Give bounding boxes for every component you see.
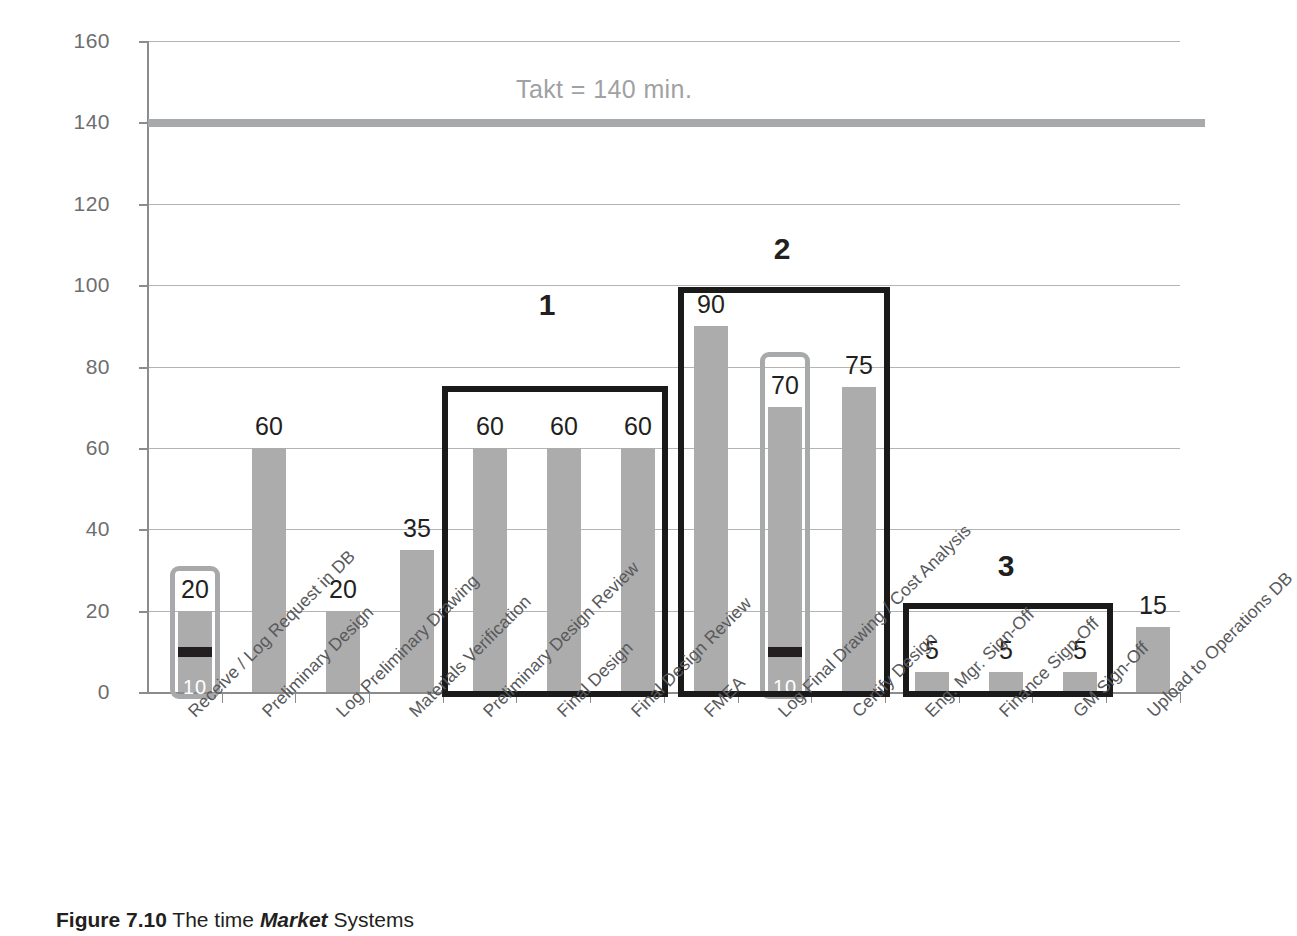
annotation-group-label-2: 2 xyxy=(752,232,812,266)
gridline-100 xyxy=(148,285,1180,286)
bar-value-materials-verification: 35 xyxy=(387,514,447,543)
y-tick-120 xyxy=(139,204,148,206)
gridline-160 xyxy=(148,41,1180,42)
figure-caption-text-after: Systems xyxy=(328,908,414,931)
y-tick-0 xyxy=(139,692,148,694)
y-tick-40 xyxy=(139,529,148,531)
takt-label: Takt = 140 min. xyxy=(516,75,692,104)
gridline-80 xyxy=(148,367,1180,368)
annotation-group-label-1: 1 xyxy=(517,288,577,322)
y-axis-label-40: 40 xyxy=(40,517,110,541)
y-axis-label-120: 120 xyxy=(40,192,110,216)
y-axis-label-100: 100 xyxy=(40,273,110,297)
takt-reference-line xyxy=(148,119,1205,127)
y-axis-label-160: 160 xyxy=(40,29,110,53)
y-axis-label-80: 80 xyxy=(40,355,110,379)
figure-caption-text-before: The time xyxy=(167,908,260,931)
gridline-120 xyxy=(148,204,1180,205)
y-tick-20 xyxy=(139,611,148,613)
figure-caption-emphasis: Market xyxy=(260,908,328,931)
y-tick-160 xyxy=(139,41,148,43)
y-axis-label-140: 140 xyxy=(40,110,110,134)
y-axis-label-60: 60 xyxy=(40,436,110,460)
figure-caption: Figure 7.10 The time Market Systems xyxy=(56,908,414,932)
y-axis-label-20: 20 xyxy=(40,599,110,623)
bar-value-upload-to-operations-db: 15 xyxy=(1123,591,1183,620)
bar-value-preliminary-design: 60 xyxy=(239,412,299,441)
annotation-group-label-3: 3 xyxy=(976,549,1036,583)
y-tick-100 xyxy=(139,285,148,287)
y-tick-140 xyxy=(139,122,148,124)
y-tick-80 xyxy=(139,367,148,369)
y-tick-60 xyxy=(139,448,148,450)
y-axis-label-0: 0 xyxy=(40,680,110,704)
figure-caption-number: Figure 7.10 xyxy=(56,908,167,931)
